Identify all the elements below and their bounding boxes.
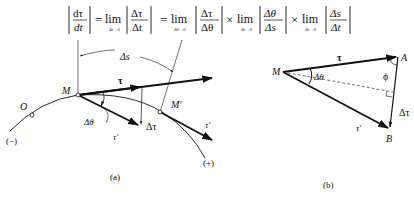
point-m-label: M (61, 85, 71, 96)
arc-length-arrow (80, 50, 115, 56)
point-a-label: A (400, 52, 408, 63)
positive-direction-label: (+) (203, 158, 214, 168)
negative-direction-label: (−) (6, 136, 17, 146)
delta-tau-label: Δτ (146, 121, 156, 132)
delta-theta-arc (309, 68, 312, 84)
arc-length-arrow (140, 57, 173, 72)
figure-b-caption: (b) (323, 180, 334, 190)
point-m (76, 93, 80, 97)
point-m-prime (158, 110, 162, 114)
angle-phi-label: ϕ (383, 71, 388, 82)
tangent-arrow-mid (78, 87, 140, 95)
tangent-label: τ (118, 75, 123, 86)
delta-tau-vector (141, 87, 142, 124)
figure-a-caption: (a) (110, 172, 120, 182)
tangent-prime-label-m: τ′ (113, 132, 119, 142)
tangent-prime-vector (283, 72, 388, 128)
delta-theta-label: Δθ (313, 72, 324, 82)
right-angle-mark (386, 91, 392, 97)
angle-bisector (283, 72, 393, 92)
tangent-prime-label: τ′ (356, 123, 362, 133)
delta-theta-label: Δθ (83, 117, 94, 127)
figure-b: M A B τ τ′ Δτ Δθ ϕ (b) (271, 52, 409, 190)
point-o (30, 113, 34, 117)
point-b-label: B (386, 133, 392, 144)
arc-length-label: Δs (119, 51, 130, 62)
tangent-prime-label-m-prime: τ′ (205, 120, 211, 130)
tangent-label: τ (337, 52, 342, 63)
delta-tau-label: Δτ (399, 107, 409, 118)
point-m-label: M (271, 66, 281, 77)
delta-tau-vector (390, 57, 398, 127)
point-o-label: O (20, 101, 27, 112)
point-m-prime-label: M′ (170, 99, 182, 110)
figure-a: Δs τ τ′ Δτ Δθ τ′ O M M′ (−) (+) (a) (6, 40, 214, 182)
figures: Δs τ τ′ Δτ Δθ τ′ O M M′ (−) (+) (a) (0, 0, 414, 199)
angle-a-arc (390, 58, 397, 65)
